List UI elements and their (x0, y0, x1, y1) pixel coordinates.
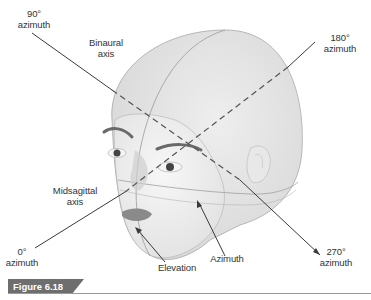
label-0-degree: 0° (2, 246, 42, 257)
label-azimuth: Azimuth (205, 253, 249, 264)
head-coordinate-diagram: 90° azimuth Binaural axis 180° azimuth M… (0, 0, 371, 300)
label-180-degree: 180° (320, 32, 360, 43)
figure-rule-divider (8, 293, 371, 294)
figure-caption-tab-edge (72, 279, 84, 294)
label-binaural-axis-word: axis (84, 48, 128, 59)
label-0-azimuth: 0° azimuth (2, 246, 42, 268)
label-180-azimuth: 180° azimuth (320, 32, 360, 54)
label-270-degree: 270° (314, 246, 358, 257)
label-elevation: Elevation (155, 262, 199, 273)
label-midsagittal-axis: Midsagittal axis (50, 185, 100, 207)
label-270-azimuth: 270° azimuth (314, 246, 358, 268)
label-90-degree: 90° (14, 8, 54, 19)
label-180-azimuth-word: azimuth (320, 43, 360, 54)
label-90-azimuth: 90° azimuth (14, 8, 54, 30)
label-90-azimuth-word: azimuth (14, 19, 54, 30)
label-midsagittal-axis-word: axis (50, 196, 100, 207)
label-270-azimuth-word: azimuth (314, 257, 358, 268)
figure-caption: Figure 6.18 (8, 279, 72, 294)
label-0-azimuth-word: azimuth (2, 257, 42, 268)
label-binaural-axis: Binaural axis (84, 37, 128, 59)
label-midsagittal-word: Midsagittal (50, 185, 100, 196)
label-binaural-word: Binaural (84, 37, 128, 48)
